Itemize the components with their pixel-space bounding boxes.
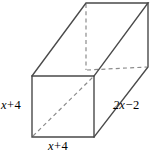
height-operator: + [7, 98, 15, 112]
depth-dimension-label: 2x−2 [113, 99, 139, 112]
width-variable: x [48, 139, 54, 153]
prism-drawing [0, 0, 157, 156]
width-dimension-label: x+4 [48, 140, 68, 153]
depth-variable: 2x [113, 98, 125, 112]
depth-operator: − [125, 98, 133, 112]
height-dimension-label: x+4 [1, 99, 21, 112]
top-face-outline [32, 3, 148, 76]
hidden-back-bottom-edge [87, 67, 147, 70]
depth-number: 2 [133, 98, 139, 112]
width-number: 4 [62, 139, 68, 153]
right-face-outline [94, 3, 148, 137]
height-number: 4 [15, 98, 21, 112]
height-variable: x [1, 98, 7, 112]
width-operator: + [54, 139, 62, 153]
rectangular-prism-figure: x+4 x+4 2x−2 [0, 0, 157, 156]
